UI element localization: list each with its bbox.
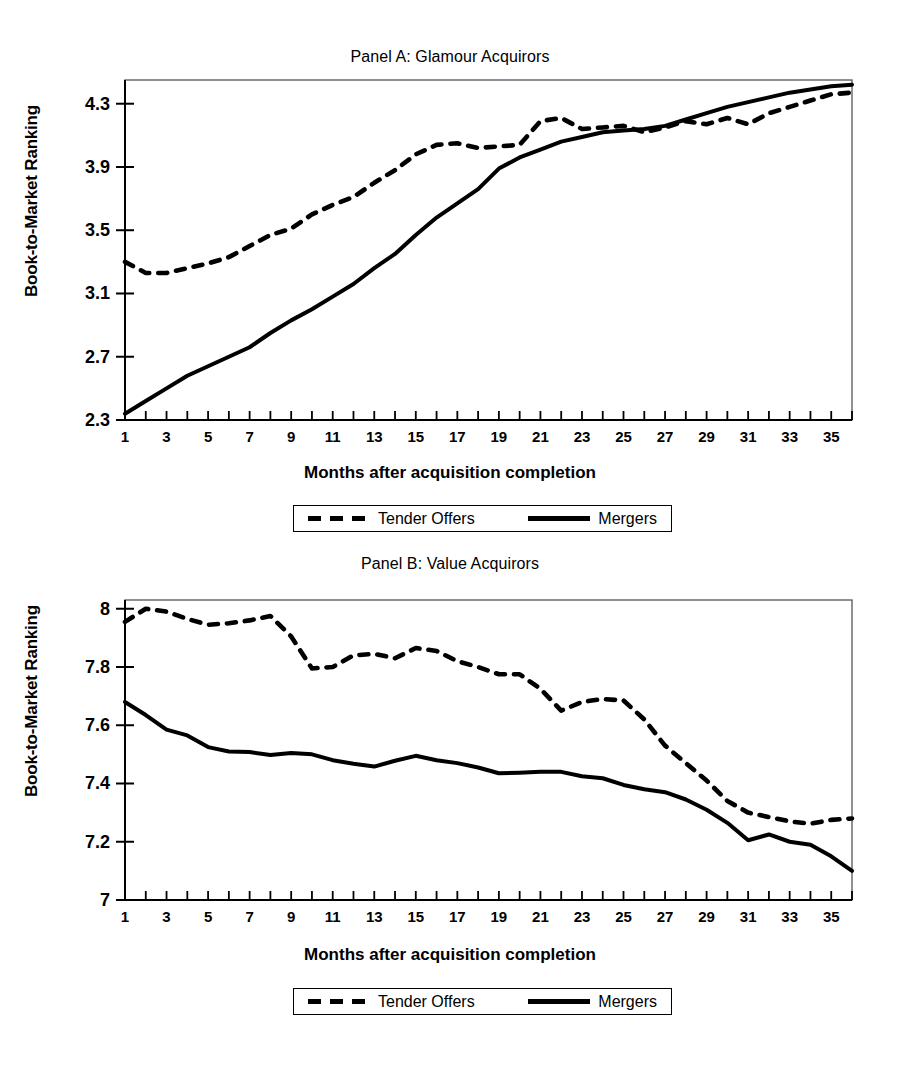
x-tick-label: 5	[204, 908, 212, 925]
x-tick-label: 33	[781, 428, 798, 445]
panel-a-x-axis-label: Months after acquisition completion	[0, 463, 900, 483]
x-tick-label: 35	[823, 908, 840, 925]
y-tick-label: 3.5	[85, 220, 110, 240]
y-tick-label: 3.1	[85, 283, 110, 303]
x-tick-label: 23	[574, 908, 591, 925]
series-line-tender-offers	[125, 609, 852, 824]
solid-line-icon	[528, 516, 590, 521]
x-tick-label: 5	[204, 428, 212, 445]
legend-label-mergers: Mergers	[598, 993, 657, 1011]
x-tick-label: 13	[366, 428, 383, 445]
y-tick-label: 7	[100, 890, 110, 910]
x-tick-label: 27	[657, 428, 674, 445]
legend-label-mergers: Mergers	[598, 510, 657, 528]
panel-b-chart: Panel B: Value Acquirors Book-to-Market …	[0, 540, 900, 1069]
x-tick-label: 31	[740, 908, 757, 925]
dashed-line-icon	[308, 999, 370, 1004]
x-tick-label: 1	[121, 908, 129, 925]
x-tick-label: 9	[287, 428, 295, 445]
y-tick-label: 7.4	[85, 773, 110, 793]
x-tick-label: 21	[532, 908, 549, 925]
x-tick-label: 15	[407, 908, 424, 925]
x-tick-label: 21	[532, 428, 549, 445]
y-tick-label: 7.2	[85, 832, 110, 852]
x-tick-label: 25	[615, 428, 632, 445]
x-tick-label: 13	[366, 908, 383, 925]
x-tick-label: 7	[245, 428, 253, 445]
legend-entry-mergers: Mergers	[528, 510, 657, 528]
plot-frame	[125, 80, 852, 420]
x-tick-label: 25	[615, 908, 632, 925]
panel-a-chart: Panel A: Glamour Acquirors Book-to-Marke…	[0, 0, 900, 540]
panel-a-legend: Tender Offers Mergers	[293, 505, 672, 532]
panel-a-plot-area: 2.32.73.13.53.94.31357911131517192123252…	[0, 0, 900, 455]
x-tick-label: 29	[698, 428, 715, 445]
x-tick-label: 19	[491, 908, 508, 925]
x-tick-label: 29	[698, 908, 715, 925]
solid-line-icon	[528, 999, 590, 1004]
legend-label-tender-offers: Tender Offers	[378, 993, 475, 1011]
panel-b-legend: Tender Offers Mergers	[293, 988, 672, 1015]
x-tick-label: 31	[740, 428, 757, 445]
series-line-mergers	[125, 702, 852, 871]
x-tick-label: 1	[121, 428, 129, 445]
panel-b-x-axis-label: Months after acquisition completion	[0, 945, 900, 965]
x-tick-label: 23	[574, 428, 591, 445]
series-line-mergers	[125, 85, 852, 414]
y-tick-label: 2.7	[85, 347, 110, 367]
x-tick-label: 35	[823, 428, 840, 445]
y-tick-label: 7.8	[85, 657, 110, 677]
legend-label-tender-offers: Tender Offers	[378, 510, 475, 528]
x-tick-label: 3	[162, 908, 170, 925]
x-tick-label: 3	[162, 428, 170, 445]
dashed-line-icon	[308, 516, 370, 521]
x-tick-label: 19	[491, 428, 508, 445]
x-tick-label: 17	[449, 908, 466, 925]
x-tick-label: 7	[245, 908, 253, 925]
panel-b-svg: 77.27.47.67.8813579111315171921232527293…	[0, 540, 900, 940]
x-tick-label: 11	[325, 908, 341, 925]
legend-entry-tender-offers: Tender Offers	[308, 510, 475, 528]
legend-entry-tender-offers: Tender Offers	[308, 993, 475, 1011]
x-tick-label: 11	[325, 428, 341, 445]
panel-a-svg: 2.32.73.13.53.94.31357911131517192123252…	[0, 0, 900, 455]
x-tick-label: 15	[407, 428, 424, 445]
y-tick-label: 3.9	[85, 157, 110, 177]
panel-b-plot-area: 77.27.47.67.8813579111315171921232527293…	[0, 540, 900, 940]
x-tick-label: 17	[449, 428, 466, 445]
y-tick-label: 8	[100, 599, 110, 619]
legend-entry-mergers: Mergers	[528, 993, 657, 1011]
series-line-tender-offers	[125, 93, 852, 273]
y-tick-label: 7.6	[85, 715, 110, 735]
x-tick-label: 27	[657, 908, 674, 925]
y-tick-label: 4.3	[85, 94, 110, 114]
y-tick-label: 2.3	[85, 410, 110, 430]
x-tick-label: 9	[287, 908, 295, 925]
x-tick-label: 33	[781, 908, 798, 925]
